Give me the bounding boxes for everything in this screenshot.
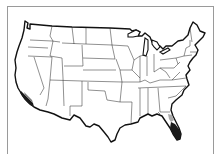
us-map bbox=[0, 0, 222, 154]
highlight-south-florida bbox=[170, 122, 181, 140]
